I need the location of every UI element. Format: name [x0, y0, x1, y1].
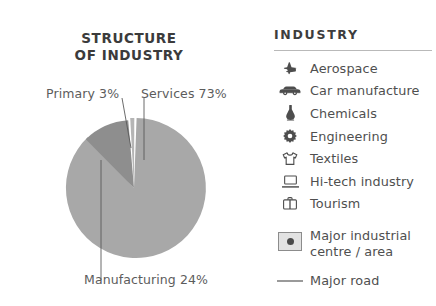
legend-item-major-road: Major road	[270, 270, 436, 292]
pie-label-manufacturing: Manufacturing 24%	[84, 272, 208, 287]
legend-label-major-industrial-centre: Major industrial centre / area	[310, 228, 411, 259]
legend-label-aerospace: Aerospace	[310, 61, 378, 76]
flask-icon	[270, 104, 310, 122]
airplane-icon	[270, 61, 310, 76]
legend-extra-list: Major industrial centre / area Major roa…	[270, 228, 436, 292]
legend-label-car-manufacture: Car manufacture	[310, 83, 420, 98]
major-road-symbol	[270, 280, 310, 282]
legend-label-major-centre-line2: centre / area	[310, 244, 411, 260]
legend-label-tourism: Tourism	[310, 196, 360, 211]
legend-label-hi-tech-industry: Hi-tech industry	[310, 174, 414, 189]
legend-item-chemicals: Chemicals	[270, 102, 436, 125]
legend-item-textiles: Textiles	[270, 147, 436, 170]
chart-page: STRUCTURE OF INDUSTRY Primary 3% Service…	[0, 0, 436, 306]
pie-label-primary: Primary 3%	[46, 86, 119, 101]
pie-label-services: Services 73%	[141, 86, 227, 101]
major-industrial-centre-symbol	[270, 228, 310, 251]
legend-item-list: Aerospace Car manufacture	[270, 57, 436, 215]
pie-chart-graphic	[0, 0, 258, 306]
legend-label-major-road-line1: Major road	[310, 273, 379, 289]
centre-dot	[287, 238, 294, 245]
legend-label-engineering: Engineering	[310, 129, 388, 144]
laptop-icon	[270, 174, 310, 189]
legend-divider	[274, 50, 432, 51]
legend-label-major-centre-line1: Major industrial	[310, 228, 411, 244]
pie-chart-panel: STRUCTURE OF INDUSTRY Primary 3% Service…	[0, 0, 258, 306]
legend-label-textiles: Textiles	[310, 151, 358, 166]
legend-item-car-manufacture: Car manufacture	[270, 80, 436, 103]
legend-panel: INDUSTRY Aerospace	[270, 0, 436, 306]
legend-heading: INDUSTRY	[274, 27, 359, 42]
legend-item-major-industrial-centre: Major industrial centre / area	[270, 228, 436, 270]
centre-swatch	[278, 232, 302, 251]
road-line	[277, 280, 303, 282]
legend-item-engineering: Engineering	[270, 125, 436, 148]
legend-item-hi-tech-industry: Hi-tech industry	[270, 170, 436, 193]
legend-label-chemicals: Chemicals	[310, 106, 377, 121]
tshirt-icon	[270, 151, 310, 167]
car-icon	[270, 84, 310, 97]
legend-item-aerospace: Aerospace	[270, 57, 436, 80]
legend-label-major-road: Major road	[310, 273, 379, 289]
gear-icon	[270, 128, 310, 144]
briefcase-icon	[270, 196, 310, 212]
legend-item-tourism: Tourism	[270, 193, 436, 216]
